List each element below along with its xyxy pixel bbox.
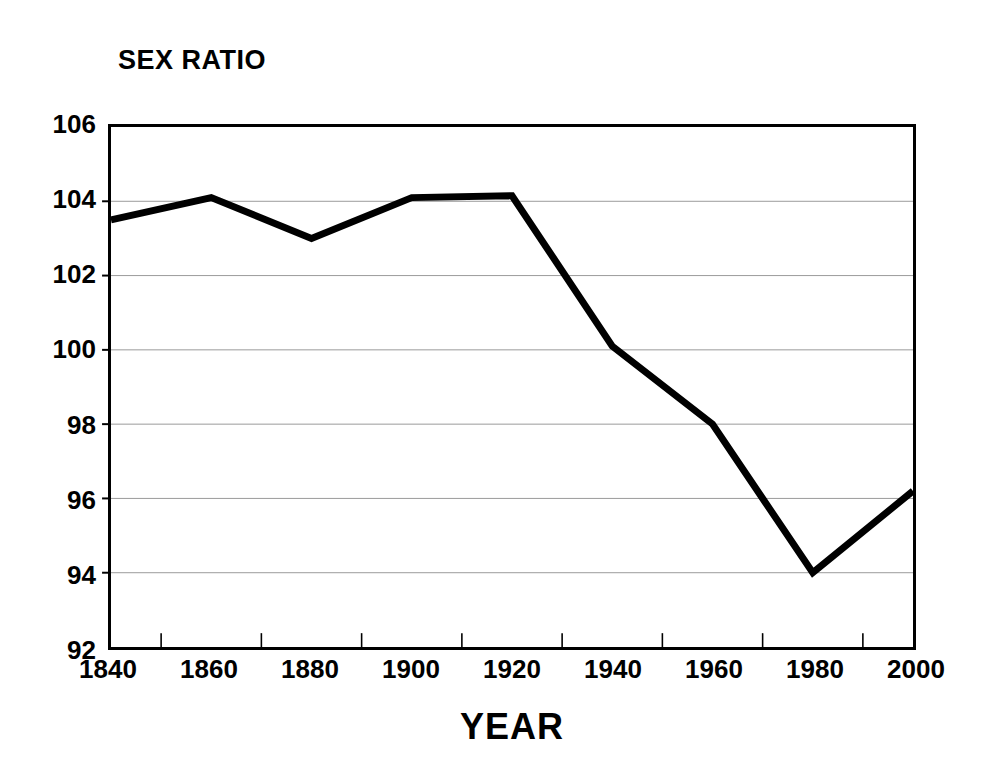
y-axis-tick-labels: 10610410210098969492 — [20, 124, 96, 650]
chart-figure: SEX RATIO 10610410210098969492 184018601… — [0, 0, 989, 771]
x-axis-tick-labels: 184018601880190019201940196019802000 — [108, 654, 916, 696]
y-axis-tick-label: 102 — [53, 259, 96, 290]
x-axis-tick-label: 1880 — [281, 654, 339, 685]
x-axis-title: YEAR — [108, 706, 916, 748]
y-axis-tick-label: 98 — [67, 409, 96, 440]
plot-area — [108, 124, 916, 650]
data-series-line — [111, 127, 913, 647]
x-axis-tick-label: 1960 — [685, 654, 743, 685]
y-axis-tick-label: 96 — [67, 484, 96, 515]
x-axis-tick-label: 1860 — [180, 654, 238, 685]
x-axis-tick-label: 2000 — [887, 654, 945, 685]
y-axis-tick-label: 104 — [53, 184, 96, 215]
chart-title: SEX RATIO — [118, 45, 266, 76]
x-axis-tick-label: 1920 — [483, 654, 541, 685]
x-axis-tick-label: 1940 — [584, 654, 642, 685]
x-axis-tick-label: 1980 — [786, 654, 844, 685]
y-axis-tick-label: 106 — [53, 109, 96, 140]
y-axis-tick-label: 94 — [67, 559, 96, 590]
series-line-sex-ratio — [111, 196, 913, 573]
x-axis-tick-label: 1840 — [79, 654, 137, 685]
x-axis-tick-label: 1900 — [382, 654, 440, 685]
y-axis-tick-label: 100 — [53, 334, 96, 365]
